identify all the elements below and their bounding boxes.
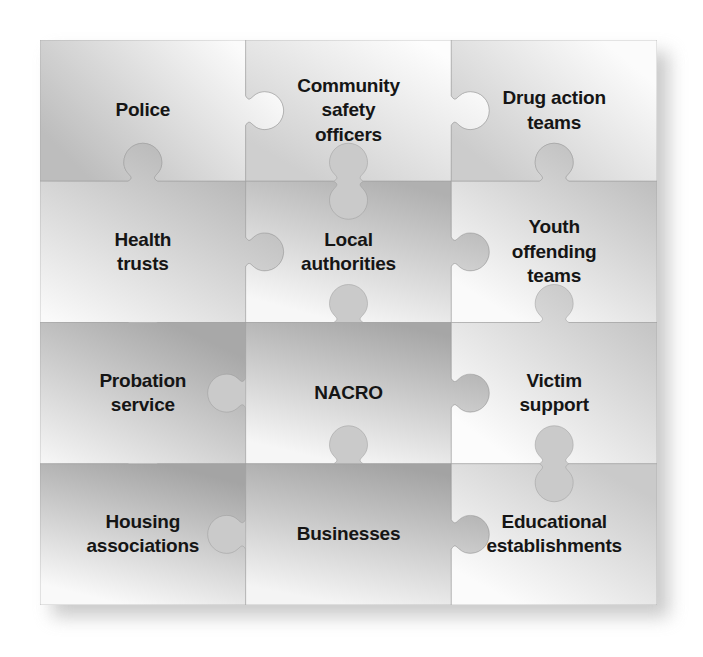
jigsaw-svg <box>40 40 657 605</box>
jigsaw-puzzle: PoliceCommunitysafetyofficersDrug action… <box>40 40 657 605</box>
jigsaw-pieces-layer <box>40 40 657 605</box>
puzzle-piece-housing-associations[interactable] <box>40 464 246 605</box>
diagram-canvas: PoliceCommunitysafetyofficersDrug action… <box>0 0 703 657</box>
